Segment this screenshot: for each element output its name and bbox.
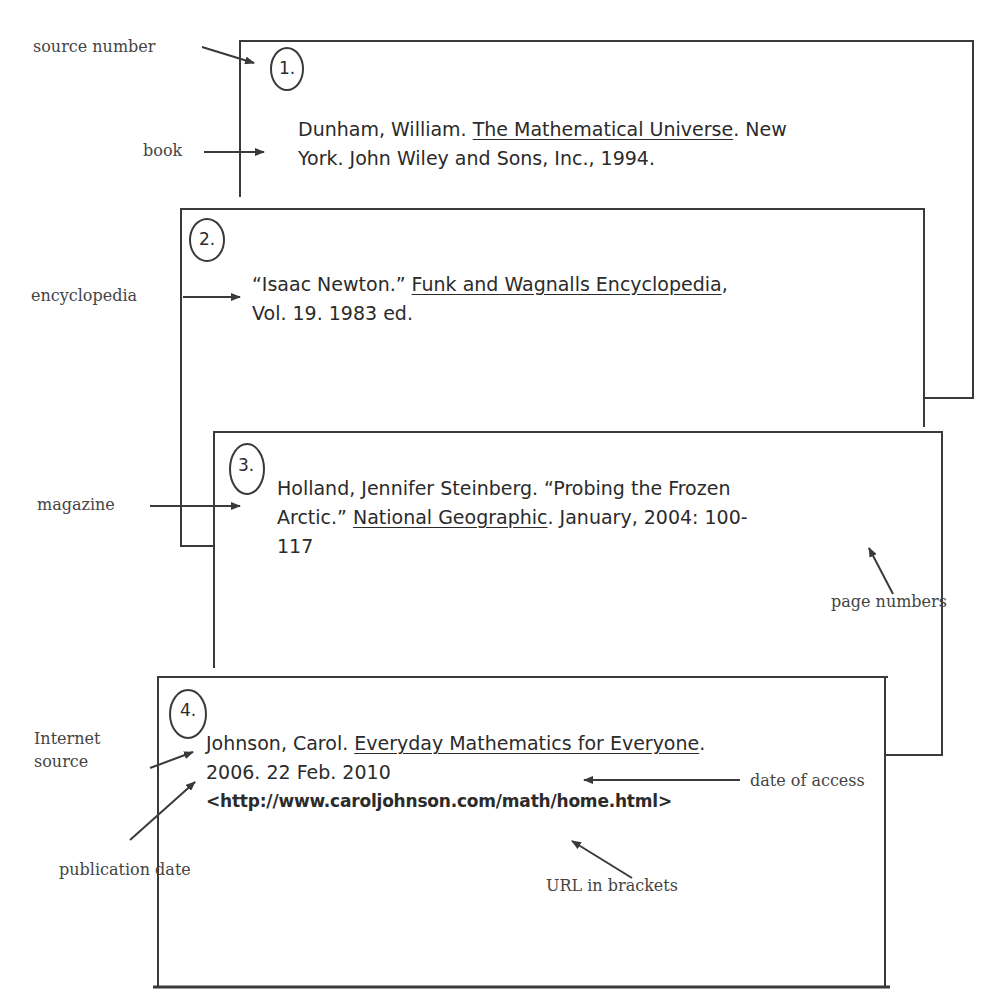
citation-book-line-1: Dunham, William. The Mathematical Univer…: [298, 115, 787, 144]
label-internet-source-line1: Internet: [34, 729, 100, 748]
label-source-number: source number: [33, 37, 155, 56]
arrow-publication-date: [130, 782, 195, 840]
citation-book-line-2: York. John Wiley and Sons, Inc., 1994.: [298, 144, 787, 173]
label-url-in-brackets: URL in brackets: [546, 876, 678, 895]
citation-internet: Johnson, Carol. Everyday Mathematics for…: [206, 729, 705, 816]
label-internet-source-line2: source: [34, 752, 88, 771]
label-date-of-access: date of access: [750, 771, 865, 790]
citation-magazine-line-3: 117: [277, 532, 748, 561]
magazine-title: National Geographic: [353, 506, 548, 528]
citation-encyclopedia-line-1: “Isaac Newton.” Funk and Wagnalls Encycl…: [252, 270, 728, 299]
bibliography-diagram: source number book encyclopedia magazine…: [0, 0, 1008, 1005]
box-4-outline: [158, 677, 888, 987]
label-page-numbers: page numbers: [831, 592, 947, 611]
arrow-page-numbers: [869, 548, 893, 594]
website-title: Everyday Mathematics for Everyone: [354, 732, 699, 754]
label-magazine: magazine: [37, 495, 115, 514]
arrow-url-in-brackets: [572, 841, 632, 878]
arrow-source-number: [202, 47, 254, 63]
citation-magazine: Holland, Jennifer Steinberg. “Probing th…: [277, 474, 748, 561]
source-number-2: 2.: [192, 229, 222, 249]
source-number-1: 1.: [272, 58, 302, 78]
citation-encyclopedia-line-2: Vol. 19. 1983 ed.: [252, 299, 728, 328]
label-publication-date: publication date: [59, 860, 191, 879]
encyclopedia-title: Funk and Wagnalls Encyclopedia: [412, 273, 722, 295]
citation-internet-line-2: 2006. 22 Feb. 2010: [206, 758, 705, 787]
label-encyclopedia: encyclopedia: [31, 286, 137, 305]
citation-encyclopedia: “Isaac Newton.” Funk and Wagnalls Encycl…: [252, 270, 728, 328]
citation-internet-url: <http://www.caroljohnson.com/math/home.h…: [206, 787, 705, 816]
citation-magazine-line-2: Arctic.” National Geographic. January, 2…: [277, 503, 748, 532]
book-title: The Mathematical Universe: [473, 118, 733, 140]
box-1-outline: [240, 41, 973, 398]
citation-internet-line-1: Johnson, Carol. Everyday Mathematics for…: [206, 729, 705, 758]
citation-book: Dunham, William. The Mathematical Univer…: [298, 115, 787, 173]
source-number-3: 3.: [231, 455, 261, 475]
source-number-4: 4.: [173, 700, 203, 720]
label-book: book: [143, 141, 182, 160]
arrow-internet-source: [150, 752, 193, 768]
citation-magazine-line-1: Holland, Jennifer Steinberg. “Probing th…: [277, 474, 748, 503]
